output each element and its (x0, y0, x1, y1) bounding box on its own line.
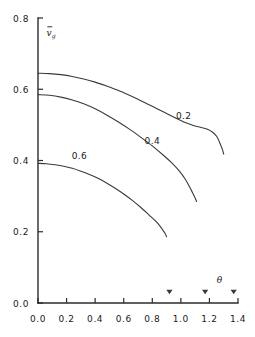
triangle-marker-icon (231, 290, 237, 294)
y-tick-label: 0.6 (13, 85, 29, 95)
data-curve-0-4 (38, 95, 197, 202)
curve-label-0-6: 0.6 (72, 151, 88, 161)
x-tick-label: 0.8 (144, 314, 160, 324)
chart-figure: 0.00.20.40.60.81.01.21.40.00.20.40.60.8 … (0, 0, 255, 337)
triangle-marker-icon (166, 290, 172, 294)
data-curve-0-6 (38, 163, 167, 236)
y-tick-label: 0.2 (13, 227, 29, 237)
x-tick-label: 0.6 (116, 314, 132, 324)
x-tick-label: 0.0 (30, 314, 46, 324)
curve-labels: 0.20.40.6 (72, 111, 192, 160)
curve-label-0-4: 0.4 (145, 136, 161, 146)
y-tick-label: 0.0 (13, 299, 29, 309)
y-tick-label: 0.8 (13, 14, 29, 24)
tick-marks (38, 18, 238, 303)
y-axis-title: vg (47, 28, 56, 40)
x-tick-label: 0.2 (59, 314, 75, 324)
chart-plot-area: 0.00.20.40.60.81.01.21.40.00.20.40.60.8 … (0, 0, 255, 337)
tick-labels: 0.00.20.40.60.81.01.21.40.00.20.40.60.8 (13, 14, 246, 325)
x-tick-label: 1.0 (173, 314, 189, 324)
x-axis-title: θ (217, 275, 223, 285)
y-tick-label: 0.4 (13, 156, 29, 166)
x-tick-label: 1.2 (201, 314, 217, 324)
x-tick-label: 0.4 (87, 314, 103, 324)
axis-triangle-markers (166, 290, 236, 294)
x-tick-label: 1.4 (230, 314, 246, 324)
triangle-marker-icon (202, 290, 208, 294)
axes (38, 18, 238, 303)
curve-label-0-2: 0.2 (176, 111, 192, 121)
data-curve-0-2 (38, 73, 224, 154)
data-curves (38, 73, 224, 237)
